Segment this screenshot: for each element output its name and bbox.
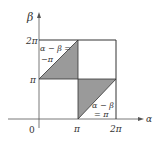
annotation-lower-line1: α − β [92, 101, 114, 110]
origin-label: 0 [29, 125, 35, 135]
y-tick-2pi: 2π [25, 36, 39, 46]
annotation-upper-line2: −π [41, 55, 54, 64]
annotation-upper-line1: α − β = [40, 44, 71, 53]
x-axis-label: α [146, 114, 152, 124]
y-axis-arrow-icon [37, 12, 41, 18]
y-axis-label: β [26, 11, 33, 24]
x-tick-2pi: 2π [109, 124, 123, 134]
x-axis-arrow-icon [138, 117, 144, 121]
y-tick-pi: π [29, 75, 37, 85]
diagram: β α 0 π 2π π 2π α − β = −π α − β = π [0, 0, 158, 142]
x-tick-pi: π [73, 124, 81, 134]
annotation-lower-line2: = π [94, 110, 109, 119]
